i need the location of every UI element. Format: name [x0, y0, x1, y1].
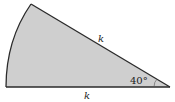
angle-label: 40°: [130, 75, 148, 86]
base-radius-label: k: [84, 90, 90, 101]
slant-radius-label: k: [98, 33, 104, 44]
sector-diagram: k 40° k: [0, 0, 175, 102]
